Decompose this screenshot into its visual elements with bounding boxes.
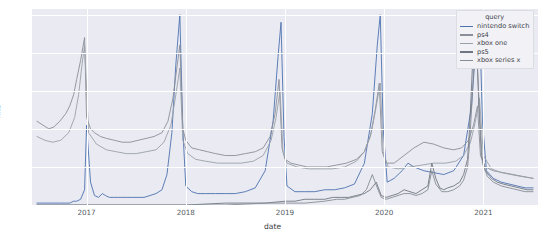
x-tick-label: 2021 — [453, 209, 513, 216]
y-axis-label: hits — [0, 105, 2, 119]
legend-color-swatch — [460, 26, 473, 28]
legend-color-swatch — [460, 43, 473, 45]
legend-label: xbox one — [477, 39, 507, 48]
x-tick-label: 2018 — [156, 209, 216, 216]
legend-label: ps5 — [477, 48, 489, 57]
legend: query nintendo switchps4xbox oneps5xbox … — [456, 10, 534, 69]
legend-label: xbox series x — [477, 56, 520, 65]
legend-title: query — [460, 13, 529, 21]
x-tick-label: 2019 — [255, 209, 315, 216]
legend-label: nintendo switch — [477, 22, 529, 31]
legend-entry[interactable]: ps4 — [460, 31, 529, 40]
legend-color-swatch — [460, 51, 473, 53]
x-tick-label: 2020 — [354, 209, 414, 216]
legend-color-swatch — [460, 60, 473, 62]
x-axis-label: date — [0, 222, 545, 231]
legend-entries: nintendo switchps4xbox oneps5xbox series… — [460, 22, 529, 65]
legend-entry[interactable]: xbox one — [460, 39, 529, 48]
legend-color-swatch — [460, 34, 473, 36]
legend-entry[interactable]: xbox series x — [460, 56, 529, 65]
legend-entry[interactable]: ps5 — [460, 48, 529, 57]
legend-entry[interactable]: nintendo switch — [460, 22, 529, 31]
x-tick-label: 2017 — [57, 209, 117, 216]
chart-figure: 020406080100 20172018201920202021 hits d… — [0, 0, 545, 243]
legend-label: ps4 — [477, 31, 489, 40]
